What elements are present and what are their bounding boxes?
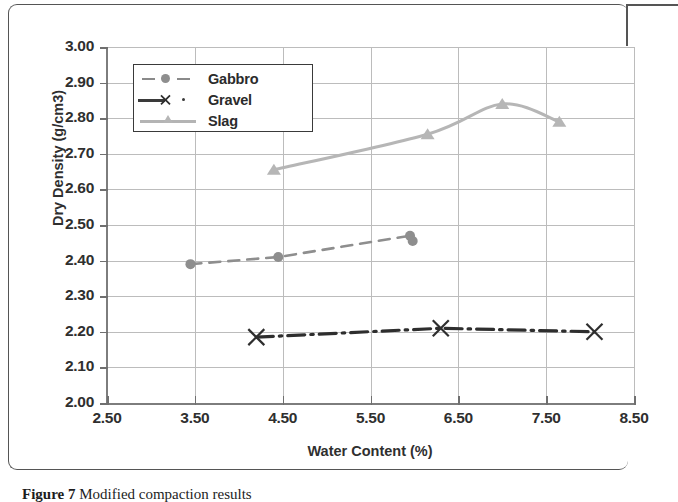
- y-axis-tick-label: 2.10: [38, 357, 94, 375]
- figure-border: [8, 4, 628, 470]
- y-axis-tick-label: 3.00: [38, 37, 94, 55]
- chart-legend: Gabbro Gravel Slag: [133, 64, 313, 132]
- legend-label-slag: Slag: [208, 113, 238, 129]
- y-axis-tick: [100, 225, 108, 227]
- figure-border-top-extension: [626, 4, 678, 6]
- x-axis-tick: [371, 396, 373, 405]
- legend-item-gravel: Gravel: [134, 89, 312, 110]
- figure-border-right-stub: [626, 4, 628, 46]
- x-axis-tick-label: 3.50: [165, 409, 225, 427]
- caption-text: Modified compaction results: [75, 486, 251, 502]
- y-axis-tick-label: 2.90: [38, 73, 94, 91]
- y-axis-tick: [100, 296, 108, 298]
- x-axis-tick-label: 5.50: [341, 409, 401, 427]
- figure-caption: Figure 7 Modified compaction results: [22, 486, 582, 502]
- x-axis-tick-label: 8.50: [604, 409, 664, 427]
- legend-swatch-slag: [134, 110, 208, 131]
- figure-page: 2.002.102.202.302.402.502.602.702.802.90…: [0, 0, 678, 502]
- gridline-vertical: [371, 47, 372, 403]
- legend-swatch-gabbro: [134, 68, 208, 89]
- caption-label: Figure 7: [22, 486, 75, 502]
- legend-label-gravel: Gravel: [208, 92, 252, 108]
- x-axis-tick-label: 4.50: [253, 409, 313, 427]
- x-axis-tick-label: 2.50: [77, 409, 137, 427]
- x-axis-title: Water Content (%): [180, 443, 560, 459]
- y-axis-tick-label: 2.50: [38, 215, 94, 233]
- y-axis-tick: [100, 118, 108, 120]
- x-axis-tick: [107, 396, 109, 405]
- gridline-vertical: [458, 47, 459, 403]
- y-axis-tick-label: 2.40: [38, 251, 94, 269]
- legend-item-gabbro: Gabbro: [134, 68, 312, 89]
- y-axis-tick-label: 2.70: [38, 144, 94, 162]
- legend-swatch-gravel: [134, 89, 208, 110]
- legend-item-slag: Slag: [134, 110, 312, 131]
- x-axis-tick-label: 7.50: [516, 409, 576, 427]
- gridline-vertical: [634, 47, 635, 403]
- y-axis-tick-label: 2.60: [38, 179, 94, 197]
- y-axis-tick: [100, 189, 108, 191]
- x-axis-tick: [634, 396, 636, 405]
- y-axis-tick: [100, 332, 108, 334]
- y-axis-tick: [100, 367, 108, 369]
- x-axis-tick: [546, 396, 548, 405]
- y-axis-tick-label: 2.30: [38, 286, 94, 304]
- y-axis-tick: [100, 261, 108, 263]
- legend-label-gabbro: Gabbro: [208, 71, 258, 87]
- y-axis-tick: [100, 154, 108, 156]
- y-axis-tick: [100, 47, 108, 49]
- y-axis-tick: [100, 83, 108, 85]
- gridline-vertical: [546, 47, 547, 403]
- x-axis-tick: [283, 396, 285, 405]
- y-axis-tick-label: 2.20: [38, 322, 94, 340]
- x-axis-tick: [195, 396, 197, 405]
- y-axis-tick-label: 2.80: [38, 108, 94, 126]
- x-axis-tick-label: 6.50: [428, 409, 488, 427]
- y-axis-title: Dry Density (g/cm3): [50, 48, 66, 268]
- x-axis-tick: [458, 396, 460, 405]
